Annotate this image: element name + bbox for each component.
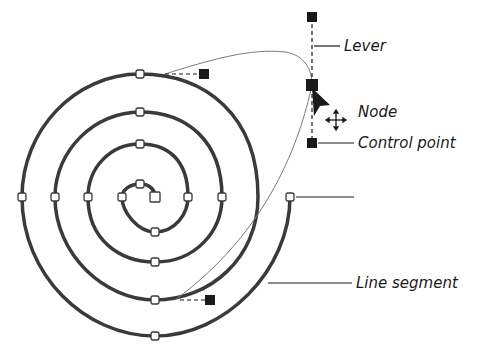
lever-handle-top [307, 12, 317, 22]
label-lever: Lever [344, 37, 386, 55]
node-handle [306, 79, 318, 91]
label-control-point: Control point [358, 134, 456, 152]
spiral-nodes [18, 70, 294, 340]
label-node: Node [358, 103, 397, 121]
label-line-segment: Line segment [356, 274, 458, 292]
spiral-diagram [0, 0, 491, 355]
four-way-move-icon [326, 110, 346, 130]
arrow-pointer-icon [312, 88, 330, 116]
control-point-handle [307, 138, 317, 148]
